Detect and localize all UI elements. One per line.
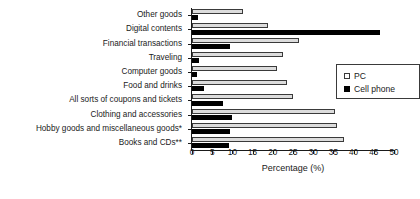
bar-group	[192, 107, 394, 121]
legend-item-cell-phone: Cell phone	[344, 82, 419, 95]
legend-label-pc: PC	[354, 71, 366, 81]
bar-group	[192, 8, 394, 22]
bar-group	[192, 122, 394, 136]
bar-cell-phone	[192, 58, 199, 63]
bar-pc	[192, 94, 293, 99]
bar-pc	[192, 137, 344, 142]
open-square-icon	[344, 73, 350, 79]
bar-cell-phone	[192, 86, 204, 91]
bar-group	[192, 22, 394, 36]
bar-pc	[192, 80, 287, 85]
category-label: Other goods	[137, 10, 182, 19]
x-axis-title: Percentage (%)	[192, 163, 394, 173]
chart-legend: PC Cell phone	[336, 64, 420, 99]
bar-cell-phone	[192, 101, 223, 106]
x-axis-tick-label: 50	[382, 148, 406, 158]
bar-pc	[192, 52, 283, 57]
category-label: Food and drinks	[123, 81, 182, 90]
filled-square-icon	[344, 86, 350, 92]
bar-cell-phone	[192, 129, 230, 134]
category-axis-labels: Other goodsDigital contentsFinancial tra…	[0, 8, 186, 150]
bar-pc	[192, 23, 268, 28]
category-label: Books and CDs**	[119, 138, 182, 147]
bar-cell-phone	[192, 115, 232, 120]
bar-pc	[192, 9, 243, 14]
category-label: Traveling	[149, 53, 182, 62]
bar-cell-phone	[192, 30, 380, 35]
category-label: All sorts of coupons and tickets	[69, 95, 182, 104]
bar-pc	[192, 109, 335, 114]
bar-pc	[192, 38, 299, 43]
bar-pc	[192, 123, 337, 128]
category-label: Computer goods	[121, 67, 182, 76]
bar-cell-phone	[192, 72, 197, 77]
category-label: Digital contents	[126, 24, 182, 33]
bar-cell-phone	[192, 15, 198, 20]
bar-cell-phone	[192, 44, 230, 49]
bar-group	[192, 51, 394, 65]
legend-label-cell-phone: Cell phone	[354, 84, 395, 94]
legend-item-pc: PC	[344, 69, 419, 82]
bar-pc	[192, 66, 277, 71]
category-label: Financial transactions	[103, 39, 182, 48]
category-label: Hobby goods and miscellaneous goods*	[36, 124, 182, 133]
bar-group	[192, 36, 394, 50]
category-label: Clothing and accessories	[91, 110, 182, 119]
